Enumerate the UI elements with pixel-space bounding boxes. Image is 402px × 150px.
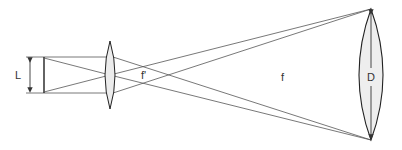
chief-rays (44, 9, 371, 140)
eyepiece-lens (105, 41, 115, 109)
label-f-prime: f' (141, 69, 146, 81)
label-D: D (367, 71, 375, 83)
label-L: L (15, 69, 21, 81)
telescope-ray-diagram: L f' f D (0, 0, 402, 150)
parallel-rays (26, 57, 110, 93)
label-f: f (281, 71, 285, 83)
marginal-rays (113, 9, 371, 140)
